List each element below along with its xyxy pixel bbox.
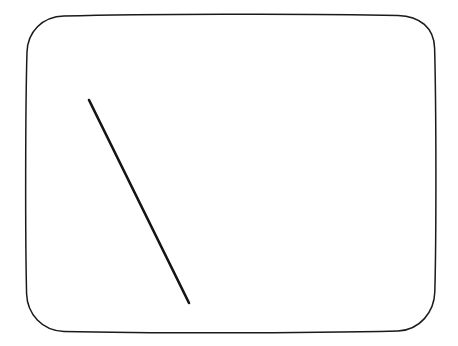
drawing-surface	[0, 0, 458, 346]
canvas-background	[0, 0, 458, 346]
figure-canvas	[0, 0, 458, 346]
